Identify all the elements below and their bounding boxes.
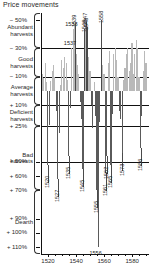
band-label: Deficientharvests	[0, 109, 33, 122]
x-axis-tick-major	[132, 254, 133, 257]
year-annotation: 1555	[93, 201, 99, 213]
chart-bar	[94, 82, 95, 91]
y-axis-tick-label: − 30%	[10, 45, 27, 51]
y-axis-tick-label: + 110%	[7, 244, 27, 250]
chart-bar	[89, 71, 90, 91]
y-axis-tick-label: + 100%	[6, 229, 27, 235]
x-axis-tick-major	[104, 254, 105, 257]
x-axis-tick-label: 1580	[125, 258, 138, 264]
chart-bar	[78, 74, 79, 91]
y-axis-tick-label: + 25%	[10, 123, 27, 129]
y-axis-tick-label: − 10%	[10, 73, 27, 79]
x-axis-tick-minor	[83, 254, 84, 256]
chart-bar	[92, 91, 93, 128]
band-label-word: harvests	[10, 116, 33, 122]
x-axis-tick-label: 1540	[69, 258, 82, 264]
price-movements-chart: Price movements − 50%− 30%− 10%+ 10%+ 25…	[0, 0, 152, 277]
year-annotation: 1527	[54, 190, 60, 202]
band-label: Abundantharvests	[0, 24, 33, 37]
x-axis-tick-minor	[69, 254, 70, 256]
year-annotation: 1537	[64, 40, 76, 46]
year-annotation: 1586	[137, 158, 143, 170]
chart-bar	[99, 91, 100, 122]
y-axis-tick-label: + 70%	[10, 187, 27, 193]
y-axis-tick-label: + 60%	[10, 173, 27, 179]
band-label-word: harvests	[10, 158, 33, 164]
chart-bar	[59, 91, 60, 134]
x-axis-tick-major	[76, 254, 77, 257]
y-axis-tick-label: + 10%	[10, 102, 27, 108]
band-brace	[34, 48, 40, 76]
plot-area: 1538153915461547154815581537152015271535…	[41, 13, 149, 253]
x-axis-tick-minor	[90, 254, 91, 256]
x-axis-tick-minor	[111, 254, 112, 256]
x-axis-tick-minor	[97, 254, 98, 256]
x-axis-tick-label: 1520	[41, 258, 54, 264]
band-label-word: Dearth	[15, 219, 33, 225]
year-annotation: 1535	[65, 167, 71, 179]
band-label: Dearth	[0, 219, 33, 226]
chart-bar	[138, 77, 139, 91]
x-axis-tick-minor	[62, 254, 63, 256]
x-axis-tick-minor	[118, 254, 119, 256]
band-label-word: Bad	[22, 152, 33, 158]
x-axis-tick-minor	[139, 254, 140, 256]
y-axis-tick-label: − 50%	[10, 17, 27, 23]
year-annotation: 1573	[119, 164, 125, 176]
band-divider-line	[41, 48, 149, 49]
chart-bar	[122, 91, 123, 153]
band-brace	[34, 13, 40, 48]
year-annotation: 1556	[90, 250, 102, 256]
chart-bar	[54, 77, 55, 91]
chart-bar	[49, 91, 50, 125]
annotation-leader-line	[87, 27, 88, 91]
chart-bar	[106, 91, 107, 156]
band-label: Badharvests	[0, 152, 33, 165]
year-annotation: 1520	[44, 175, 50, 187]
chart-bar	[109, 51, 110, 91]
band-brace	[34, 126, 40, 190]
annotation-leader-line	[75, 24, 76, 91]
band-brace	[34, 105, 40, 126]
x-axis-tick-major	[48, 254, 49, 257]
annotation-leader-line	[101, 20, 102, 91]
chart-bar	[67, 80, 68, 91]
band-label-word: Deficient	[10, 109, 33, 115]
chart-bar	[141, 91, 142, 117]
chart-bar	[70, 91, 71, 108]
year-annotation: 1565	[107, 175, 113, 187]
year-annotation: 1545	[79, 180, 85, 192]
band-label: Averageharvests	[0, 84, 33, 97]
band-label: Goodharvests	[0, 56, 33, 69]
band-brace	[34, 190, 40, 254]
band-label-word: Good	[18, 56, 33, 62]
chart-bar	[46, 82, 47, 91]
x-axis-tick-minor	[125, 254, 126, 256]
band-label-word: Abundant	[7, 24, 33, 30]
chart-bar	[117, 77, 118, 91]
x-axis-tick-minor	[55, 254, 56, 256]
x-axis-tick-label: 1560	[97, 258, 110, 264]
chart-bar	[145, 63, 146, 91]
chart-bar	[103, 74, 104, 91]
band-label-word: harvests	[10, 63, 33, 69]
band-label-word: harvests	[10, 31, 33, 37]
band-brace	[34, 77, 40, 105]
x-axis-tick-minor	[146, 254, 147, 256]
band-label-word: Average	[11, 84, 33, 90]
band-label-word: harvests	[10, 91, 33, 97]
chart-bar	[82, 91, 83, 169]
chart-bar	[112, 91, 113, 114]
